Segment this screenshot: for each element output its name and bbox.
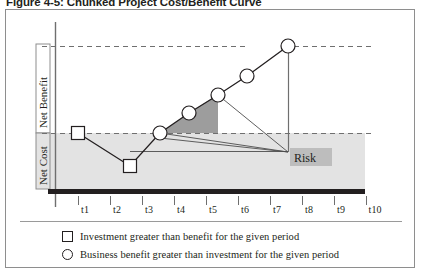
x-tick-label-t4: t4 <box>177 204 185 215</box>
legend-item-investment: Investment greater than benefit for the … <box>62 228 392 245</box>
x-tick-label-t1: t1 <box>81 204 89 215</box>
data-point-t7-circle[interactable] <box>281 39 295 53</box>
x-tick-label-t10: t10 <box>369 204 382 215</box>
risk-label: Risk <box>294 151 316 165</box>
x-tick-label-t9: t9 <box>337 204 345 215</box>
data-point-t5-circle[interactable] <box>211 88 225 102</box>
net-cost-label: Net Cost <box>37 146 49 185</box>
data-point-t3-circle[interactable] <box>153 126 167 140</box>
x-tick-label-t5: t5 <box>209 204 217 215</box>
x-tick-label-t8: t8 <box>305 204 313 215</box>
x-tick-label-t3: t3 <box>145 204 153 215</box>
x-tick-label-t2: t2 <box>113 204 121 215</box>
data-point-t6-circle[interactable] <box>240 69 254 83</box>
x-axis-bar <box>48 189 365 194</box>
legend-item-benefit: Business benefit greater than investment… <box>62 246 392 263</box>
legend-square-icon <box>62 231 73 242</box>
figure-root: Figure 4-5: Chunked Project Cost/Benefit… <box>0 0 422 274</box>
legend-divider <box>20 221 402 222</box>
data-point-t1-square[interactable] <box>72 127 85 140</box>
legend-circle-icon <box>62 249 73 260</box>
legend-item-label: Business benefit greater than investment… <box>80 249 339 260</box>
net-benefit-label: Net Benefit <box>37 77 49 128</box>
data-point-t4-circle[interactable] <box>182 106 196 120</box>
x-tick-label-t7: t7 <box>273 204 281 215</box>
chart-legend: Investment greater than benefit for the … <box>62 228 392 264</box>
legend-item-label: Investment greater than benefit for the … <box>80 231 299 242</box>
x-axis-ticks <box>79 196 367 205</box>
data-point-t2-square[interactable] <box>124 160 137 173</box>
x-tick-label-t6: t6 <box>241 204 249 215</box>
